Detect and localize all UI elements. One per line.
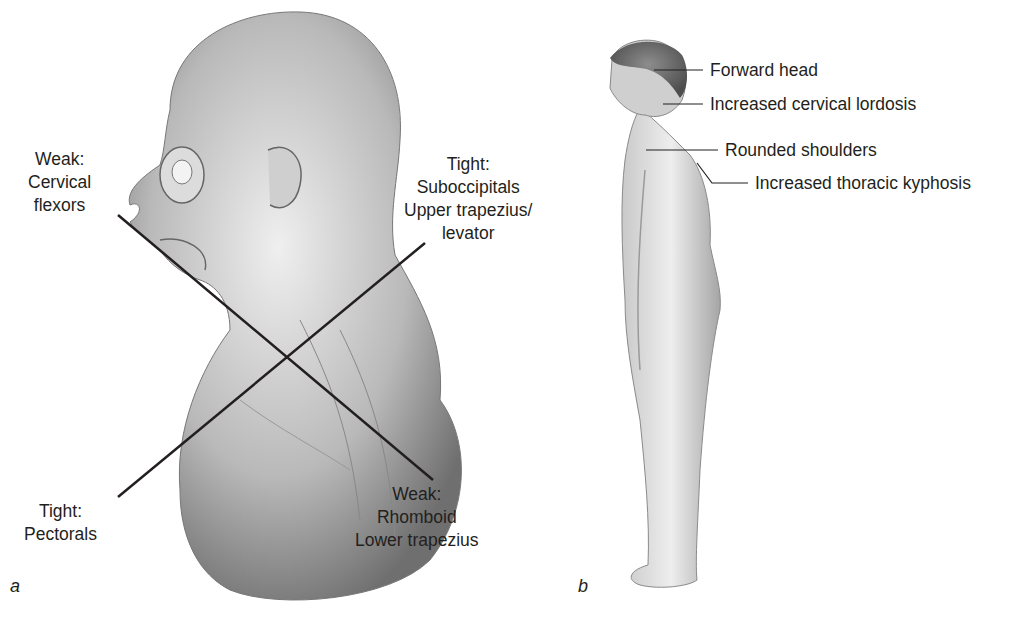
label-line: Weak:: [28, 148, 91, 171]
label-line: levator: [404, 222, 532, 245]
label-rounded-shoulders: Rounded shoulders: [725, 139, 877, 162]
label-line: Tight:: [404, 153, 532, 176]
label-line: Upper trapezius/: [404, 199, 532, 222]
label-line: Pectorals: [24, 523, 97, 546]
label-line: Lower trapezius: [355, 529, 479, 552]
panel-letter-b: b: [578, 576, 588, 597]
label-line: flexors: [28, 194, 91, 217]
label-line: Weak:: [355, 483, 479, 506]
label-tight-suboccipitals: Tight: Suboccipitals Upper trapezius/ le…: [404, 153, 532, 245]
label-line: Cervical: [28, 171, 91, 194]
label-weak-cervical-flexors: Weak: Cervical flexors: [28, 148, 91, 217]
label-thoracic-kyphosis: Increased thoracic kyphosis: [755, 172, 971, 195]
label-line: Tight:: [24, 500, 97, 523]
standing-figure-illustration: [610, 40, 720, 587]
label-cervical-lordosis: Increased cervical lordosis: [710, 93, 916, 116]
panel-letter-a: a: [10, 576, 20, 597]
label-line: Suboccipitals: [404, 176, 532, 199]
label-weak-rhomboid: Weak: Rhomboid Lower trapezius: [355, 483, 479, 552]
label-tight-pectorals: Tight: Pectorals: [24, 500, 97, 546]
label-line: Rhomboid: [355, 506, 479, 529]
label-forward-head: Forward head: [710, 59, 818, 82]
